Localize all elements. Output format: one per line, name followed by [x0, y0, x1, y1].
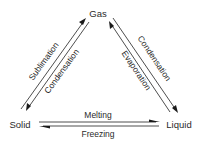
label-freezing: Freezing — [81, 129, 114, 139]
arrow-condensation-to-liquid — [113, 18, 178, 113]
node-liquid: Liquid — [166, 119, 191, 130]
arrow-sublimation — [21, 18, 86, 109]
node-solid: Solid — [9, 119, 30, 130]
phase-diagram: Gas Solid Liquid — [0, 0, 202, 148]
node-gas: Gas — [89, 8, 107, 19]
label-melting: Melting — [84, 110, 112, 120]
